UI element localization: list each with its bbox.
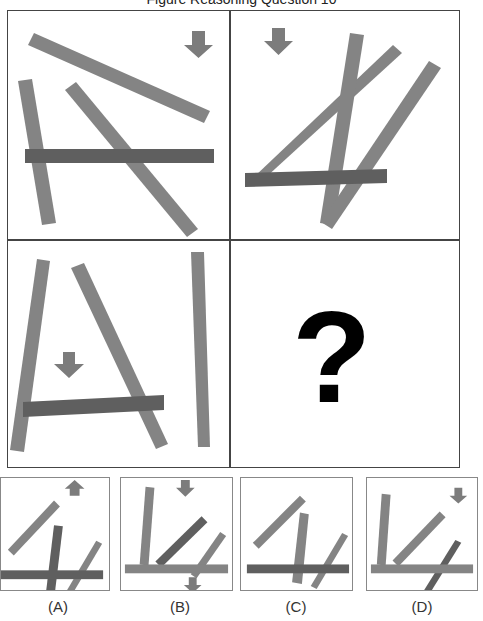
bar-horizontal-dark	[247, 564, 349, 573]
bar-right-diagonal	[311, 533, 348, 589]
arrow-down-top-icon	[176, 480, 195, 497]
bar-top-diagonal	[28, 33, 210, 123]
bar-left-slant	[10, 259, 50, 452]
option-b-label: (B)	[150, 598, 210, 615]
bar-right-vertical	[191, 252, 210, 447]
arrow-down-icon	[264, 28, 293, 55]
arrow-down-icon	[54, 352, 84, 378]
bar-horizontal-dark	[1, 570, 103, 579]
puzzle-cell-4: ?	[230, 240, 461, 469]
option-a-label: (A)	[28, 598, 88, 615]
question-mark-icon: ?	[292, 292, 371, 422]
bar-horizontal	[371, 564, 473, 573]
arrow-down-icon	[184, 31, 213, 58]
bar-middle-diagonal	[393, 511, 446, 566]
arrow-down-bottom-icon	[184, 577, 202, 590]
bar-vertical	[292, 512, 309, 584]
bar-long-diagonal	[252, 45, 402, 179]
option-a[interactable]	[0, 477, 110, 591]
bar-dark-vertical	[46, 525, 63, 590]
option-c-label: (C)	[266, 598, 326, 615]
puzzle-cell-3	[8, 240, 229, 469]
bar-horizontal-dark	[25, 149, 214, 163]
option-d[interactable]	[366, 477, 478, 591]
puzzle-cell-2	[230, 11, 461, 239]
option-b[interactable]	[120, 477, 233, 591]
option-d-label: (D)	[392, 598, 452, 615]
puzzle-grid: ?	[7, 10, 460, 468]
bar-left-vertical	[377, 494, 391, 566]
bar-left-vertical	[140, 487, 155, 566]
question-title: Figure Reasoning Question 10	[0, 0, 483, 7]
option-c[interactable]	[240, 477, 353, 591]
puzzle-cell-1	[8, 11, 229, 239]
bar-dark-diagonal	[155, 516, 207, 567]
arrow-down-icon	[450, 488, 468, 504]
bar-diagonal	[71, 263, 168, 449]
bar-horizontal	[125, 564, 228, 573]
bar-right-diagonal	[65, 541, 102, 590]
arrow-up-icon	[65, 480, 85, 496]
